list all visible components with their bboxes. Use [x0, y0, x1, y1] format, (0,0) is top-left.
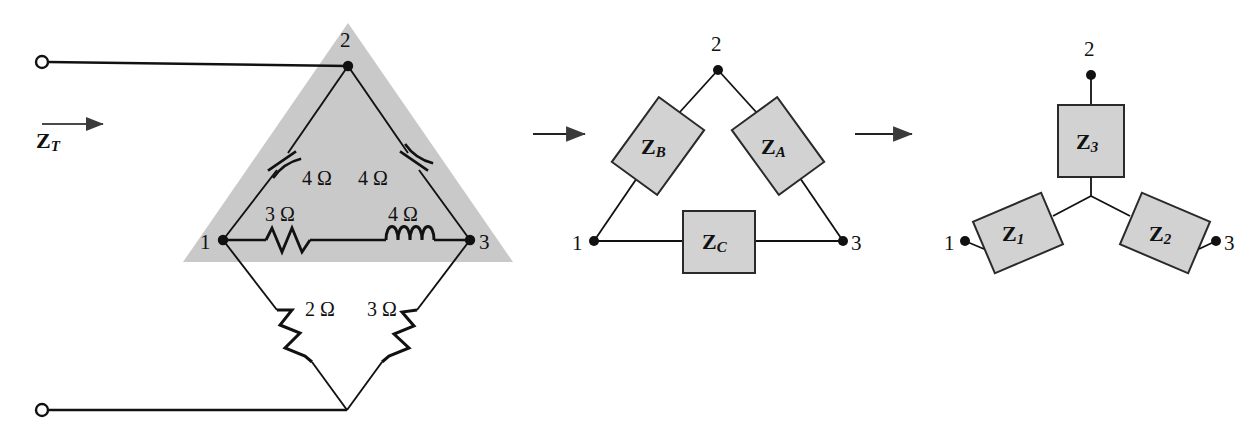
- node-dot-3-delta: [838, 236, 848, 246]
- wire-res2ohm-to-bottom: [312, 362, 347, 410]
- wye-wire-center-to-Z2: [1091, 196, 1130, 216]
- delta-wire-ZB-to-1: [594, 178, 637, 241]
- delta-wire-2-to-ZB: [679, 70, 718, 113]
- delta-wire-ZA-to-3: [800, 178, 843, 241]
- node-label-1-wye: 1: [944, 231, 955, 256]
- node-dot-2-left: [343, 61, 353, 71]
- impedance-ZA-label: ZA: [761, 134, 786, 161]
- node-label-2-delta: 2: [711, 32, 722, 57]
- node-label-2-left: 2: [340, 28, 351, 53]
- top-lead-wire: [48, 62, 348, 66]
- node-dot-1-delta: [589, 236, 599, 246]
- bottom-terminal-icon: [36, 404, 48, 416]
- wire-res3ohm-to-bottom: [347, 362, 382, 410]
- delta-wire-2-to-ZA: [718, 70, 757, 113]
- node-label-2-wye: 2: [1084, 37, 1095, 62]
- node-dot-3-wye: [1211, 236, 1221, 246]
- resistor-1-bottom-value: 2 Ω: [305, 298, 335, 321]
- node-label-1-left: 1: [200, 230, 211, 255]
- top-terminal-icon: [36, 56, 48, 68]
- figure-root: ZT 2 1 3 4 Ω 4 Ω 3 Ω 4 Ω 2 Ω 3 Ω 2 1 3 Z…: [0, 0, 1260, 443]
- node-dot-1-wye: [960, 236, 970, 246]
- node-dot-2-delta: [713, 65, 723, 75]
- impedance-Z1-label: Z1: [1002, 221, 1024, 248]
- resistor-1-3-value: 3 Ω: [265, 203, 295, 226]
- inductor-1-3-value: 4 Ω: [388, 203, 418, 226]
- node-label-3-wye: 3: [1224, 231, 1235, 256]
- node-dot-1-left: [218, 235, 228, 245]
- capacitor-1-2-value: 4 Ω: [302, 167, 332, 190]
- impedance-ZC-label: ZC: [702, 229, 727, 256]
- node-label-1-delta: 1: [572, 231, 583, 256]
- zt-label: ZT: [36, 128, 60, 155]
- impedance-ZB-label: ZB: [641, 134, 666, 161]
- node-label-3-delta: 3: [851, 231, 862, 256]
- impedance-Z3-label: Z3: [1076, 129, 1098, 156]
- node-dot-2-wye: [1086, 70, 1096, 80]
- node-label-3-left: 3: [479, 230, 490, 255]
- node-dot-3-left: [465, 235, 475, 245]
- wye-wire-center-to-Z1: [1053, 196, 1091, 216]
- capacitor-2-3-value: 4 Ω: [358, 167, 388, 190]
- resistor-3-bottom-value: 3 Ω: [367, 298, 397, 321]
- circuit-canvas: [0, 0, 1260, 443]
- impedance-Z2-label: Z2: [1149, 221, 1171, 248]
